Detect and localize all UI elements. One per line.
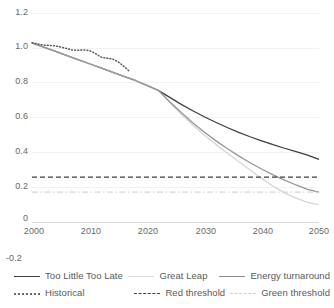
legend-swatch-icon <box>134 288 160 298</box>
series-lines <box>32 13 319 222</box>
x-tick-label: 2030 <box>186 226 226 236</box>
legend-item-energy-turnaround[interactable]: Energy turnaround <box>219 270 330 281</box>
x-tick-label: 2050 <box>299 226 334 236</box>
line-chart: 1.2 1.0 0.8 0.6 0.4 0.2 0 -0.2 2000 2010… <box>0 0 334 308</box>
y-tick-label: 1.0 <box>2 41 28 51</box>
y-tick-label: 0.4 <box>2 146 28 156</box>
legend-item-historical[interactable]: Historical <box>14 287 134 298</box>
series-path <box>32 43 130 72</box>
series-path <box>32 43 319 205</box>
y-tick-label-negative: -0.2 <box>6 253 22 263</box>
y-tick-label: 0.6 <box>2 111 28 121</box>
series-path <box>32 43 319 159</box>
legend-swatch-icon <box>230 288 256 298</box>
x-tick-label: 2040 <box>243 226 283 236</box>
legend-label: Green threshold <box>261 287 330 298</box>
chart-legend: Too Little Too Late Great Leap Energy tu… <box>14 267 330 301</box>
legend-label: Great Leap <box>159 270 207 281</box>
y-tick-label: 1.2 <box>2 7 28 17</box>
legend-item-great-leap[interactable]: Great Leap <box>128 270 219 281</box>
legend-item-green-threshold[interactable]: Green threshold <box>230 287 330 298</box>
plot-area <box>32 13 319 222</box>
x-tick-label: 2000 <box>14 226 54 236</box>
legend-label: Red threshold <box>165 287 225 298</box>
legend-row-2: Historical Red threshold Green threshold <box>14 284 330 301</box>
y-tick-label: 0.8 <box>2 76 28 86</box>
x-tick-label: 2010 <box>71 226 111 236</box>
legend-item-too-little-too-late[interactable]: Too Little Too Late <box>14 270 128 281</box>
legend-swatch-icon <box>14 271 40 281</box>
legend-swatch-icon <box>14 288 40 298</box>
legend-row-1: Too Little Too Late Great Leap Energy tu… <box>14 267 330 284</box>
legend-item-red-threshold[interactable]: Red threshold <box>134 287 230 298</box>
legend-swatch-icon <box>128 271 154 281</box>
x-axis-line <box>32 222 319 223</box>
y-tick-label: 0.2 <box>2 181 28 191</box>
legend-swatch-icon <box>219 271 245 281</box>
legend-label: Energy turnaround <box>250 270 330 281</box>
y-tick-label: 0 <box>2 213 28 223</box>
series-path <box>32 43 319 192</box>
legend-label: Historical <box>45 287 85 298</box>
legend-label: Too Little Too Late <box>45 270 123 281</box>
x-tick-label: 2020 <box>128 226 168 236</box>
